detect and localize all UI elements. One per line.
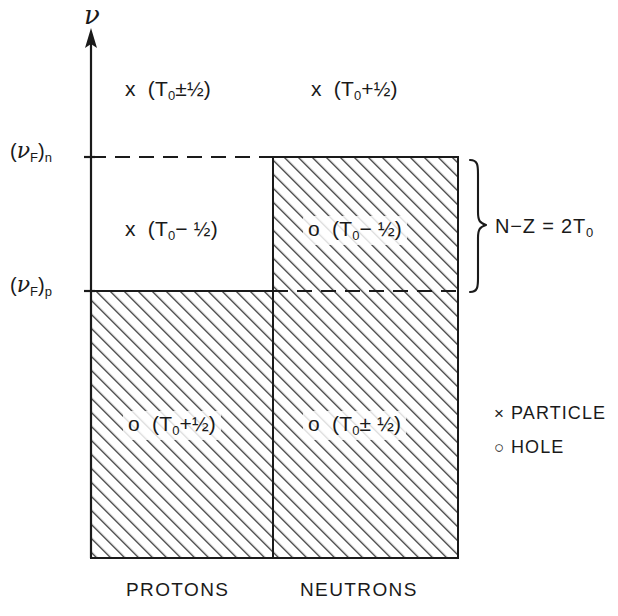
legend-label-hole: HOLE (511, 437, 564, 457)
t-symbol: T (159, 412, 172, 435)
cell-neutron-hole-bottom: o (T0± ½) (303, 411, 406, 440)
circle-marker-icon: o (128, 412, 140, 435)
half-fraction: ½ (192, 413, 209, 435)
diagram-canvas (0, 0, 618, 616)
cell-neutron-particle-top: x (T0+½) (311, 78, 398, 102)
column-label-protons: PROTONS (126, 580, 229, 599)
legend-item-particle: ×PARTICLE (494, 404, 606, 422)
circle-marker-icon: o (308, 217, 320, 240)
proton-fermi-label: (νF)p (10, 274, 52, 298)
nu-glyph: ν (17, 272, 30, 297)
half-fraction: ½ (377, 413, 394, 435)
sign-symbol: − (175, 217, 187, 240)
half-fraction: ½ (374, 78, 391, 100)
cross-marker-icon: × (494, 405, 511, 422)
sign-symbol: + (179, 412, 191, 435)
legend-label-particle: PARTICLE (511, 403, 606, 423)
fermi-subscript: F (30, 150, 38, 165)
t-symbol: T (155, 217, 168, 240)
sign-symbol: ± (359, 412, 371, 435)
fermi-subscript: F (30, 284, 38, 299)
axis-label-nu: ν (84, 2, 100, 28)
cross-marker-icon: x (311, 77, 322, 100)
two-value: 2 (561, 215, 573, 237)
n-minus-z-annotation: N−Z = 2T0 (495, 216, 594, 239)
cross-marker-icon: x (125, 217, 136, 240)
t-symbol: T (339, 217, 352, 240)
t-subscript: 0 (586, 225, 594, 240)
cross-marker-icon: x (125, 77, 136, 100)
z-symbol: Z (523, 215, 536, 237)
sign-symbol: ± (175, 77, 187, 100)
half-fraction: ½ (187, 78, 204, 100)
neutron-fermi-label: (νF)n (10, 140, 52, 164)
circle-marker-icon: o (308, 412, 320, 435)
legend-item-hole: ○HOLE (494, 438, 564, 456)
cell-proton-hole-bottom: o (T0+½) (123, 411, 221, 440)
half-fraction: ½ (194, 218, 211, 240)
n-symbol: N (495, 215, 510, 237)
brace-icon (470, 160, 486, 292)
t-symbol: T (341, 77, 354, 100)
cell-proton-particle-mid: x (T0− ½) (125, 218, 218, 242)
sign-symbol: + (361, 77, 373, 100)
equals-symbol: = (542, 215, 554, 237)
species-subscript: n (45, 150, 52, 165)
species-subscript: p (45, 284, 52, 299)
column-label-neutrons: NEUTRONS (300, 580, 418, 599)
circle-marker-icon: ○ (494, 439, 511, 456)
nu-glyph: ν (17, 138, 30, 163)
cell-neutron-hole-mid: o (T0− ½) (303, 216, 407, 245)
fermi-level-diagram: ν (νF)n (νF)p x (T0±½) x (T0+½) x (T0− ½… (0, 0, 618, 616)
half-fraction: ½ (378, 218, 395, 240)
t-symbol: T (155, 77, 168, 100)
cell-proton-particle-top: x (T0±½) (125, 78, 211, 102)
minus-symbol: − (510, 215, 522, 237)
t-symbol: T (339, 412, 352, 435)
t-symbol: T (573, 215, 586, 237)
sign-symbol: − (359, 217, 371, 240)
